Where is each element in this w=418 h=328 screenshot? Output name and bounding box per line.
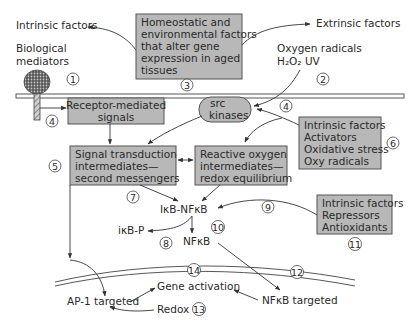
svg-text:12: 12 — [291, 267, 303, 278]
svg-text:intermediates—: intermediates— — [75, 160, 159, 172]
svg-text:Intrinsic factors: Intrinsic factors — [304, 119, 386, 131]
step-marker-3: 3 — [181, 79, 193, 91]
svg-text:src: src — [210, 97, 226, 109]
step-marker-12: 12 — [291, 266, 304, 279]
arrow-activators-to-src — [257, 109, 299, 125]
ikb-p-label: iκB-P — [118, 224, 144, 236]
svg-text:4: 4 — [49, 116, 55, 127]
svg-text:13: 13 — [193, 304, 205, 315]
gene-expression-diagram: Intrinsic factors Extrinsic factors Biol… — [0, 0, 418, 328]
svg-text:9: 9 — [265, 202, 271, 213]
svg-text:Activators: Activators — [304, 131, 357, 143]
step-marker-4a: 4 — [46, 115, 58, 127]
ikb-nfkb-label: IκB-NFκB — [160, 203, 208, 215]
svg-text:kinases: kinases — [209, 109, 249, 121]
svg-text:Homeostatic and: Homeostatic and — [141, 16, 230, 28]
svg-text:expression in aged: expression in aged — [141, 52, 240, 64]
gene-activation-label: Gene activation — [157, 280, 240, 292]
svg-text:4: 4 — [283, 101, 289, 112]
svg-text:tissues: tissues — [141, 64, 178, 76]
bio-mediators-label-line2: mediators — [16, 55, 69, 67]
repressors-box: Intrinsic factors Repressors Antioxidant… — [317, 195, 404, 234]
step-marker-14: 14 — [188, 264, 201, 277]
svg-text:Antioxidants: Antioxidants — [322, 221, 387, 233]
svg-text:that alter gene: that alter gene — [141, 40, 219, 52]
svg-text:5: 5 — [52, 161, 58, 172]
svg-text:Signal transduction: Signal transduction — [75, 148, 177, 160]
svg-text:10: 10 — [212, 222, 224, 233]
activators-box: Intrinsic factors Activators Oxidative s… — [299, 117, 389, 169]
svg-text:14: 14 — [188, 265, 200, 276]
svg-text:Repressors: Repressors — [322, 209, 380, 221]
receptor-mediated-signals-box: Receptor-mediated signals — [66, 98, 166, 124]
h2o2-uv-label: H₂O₂ UV — [277, 55, 321, 67]
intrinsic-factors-top-label: Intrinsic factors — [16, 19, 98, 31]
svg-text:11: 11 — [349, 239, 361, 250]
svg-text:2: 2 — [320, 74, 326, 85]
svg-text:Oxy radicals: Oxy radicals — [304, 155, 369, 167]
step-marker-2: 2 — [317, 73, 329, 85]
bio-mediators-label-line1: Biological — [16, 42, 67, 54]
arrow-oxygen-to-src — [254, 70, 300, 106]
svg-text:signals: signals — [98, 111, 135, 123]
step-marker-6: 6 — [387, 137, 399, 149]
svg-text:Reactive oxygen: Reactive oxygen — [200, 148, 287, 160]
oxygen-radicals-label: Oxygen radicals — [277, 42, 362, 54]
svg-text:6: 6 — [390, 138, 396, 149]
step-marker-1: 1 — [67, 73, 79, 85]
nfkb-targeted-label: NFκB targeted — [262, 294, 338, 306]
step-marker-11: 11 — [349, 238, 362, 251]
svg-text:1: 1 — [70, 74, 76, 85]
svg-text:8: 8 — [163, 238, 169, 249]
step-marker-5: 5 — [49, 160, 61, 172]
arrow-activators-to-reactive — [245, 118, 282, 142]
src-kinases-node: src kinases — [199, 97, 251, 122]
svg-text:redox equilibrium: redox equilibrium — [200, 172, 292, 184]
step-marker-8: 8 — [160, 237, 172, 249]
nfkb-label: NFκB — [183, 235, 210, 247]
ap1-targeted-label: AP-1 targeted — [67, 295, 139, 307]
step-marker-4b: 4 — [280, 100, 292, 112]
arrow-nfkb-targeted-to-gene — [234, 290, 258, 300]
step-marker-10: 10 — [212, 221, 225, 234]
svg-text:environmental factors: environmental factors — [141, 28, 257, 40]
extrinsic-factors-top-label: Extrinsic factors — [316, 17, 401, 29]
redox-label: Redox — [157, 303, 189, 315]
step-marker-7: 7 — [127, 191, 139, 203]
svg-text:3: 3 — [184, 80, 190, 91]
homeostatic-factors-box: Homeostatic and environmental factors th… — [136, 14, 257, 79]
svg-text:Intrinsic factors: Intrinsic factors — [322, 197, 404, 209]
arrow-ikb-to-ikbp — [148, 216, 192, 231]
arrow-reactive-to-ikb — [202, 185, 220, 201]
signal-transduction-box: Signal transduction intermediates— secon… — [70, 146, 179, 185]
svg-text:second messengers: second messengers — [75, 172, 179, 184]
arrow-redox-to-ap1 — [110, 307, 154, 311]
step-marker-9: 9 — [262, 201, 274, 213]
svg-text:Receptor-mediated: Receptor-mediated — [66, 99, 166, 111]
reactive-oxygen-box: Reactive oxygen intermediates— redox equ… — [195, 146, 292, 185]
step-marker-13: 13 — [193, 303, 206, 316]
svg-text:intermediates—: intermediates— — [200, 160, 284, 172]
arrow-signal-to-ikb — [140, 185, 178, 201]
svg-text:Oxidative stress: Oxidative stress — [304, 143, 389, 155]
svg-text:7: 7 — [130, 192, 136, 203]
